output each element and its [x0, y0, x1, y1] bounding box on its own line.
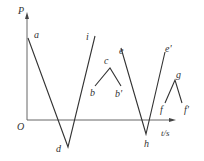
point-label-e: e [119, 46, 123, 56]
point-label-f: f [160, 105, 163, 115]
point-label-h: h [144, 139, 149, 149]
y-axis-arrow-icon [25, 12, 29, 19]
point-label-d: d [56, 144, 61, 154]
x-axis-label: t/s [161, 128, 170, 138]
point-label-b: b [90, 88, 95, 98]
point-label-a: a [34, 30, 39, 40]
point-label-i: i [86, 32, 89, 42]
curve-b-c-b-prime [95, 68, 121, 86]
x-axis-arrow-icon [169, 118, 176, 122]
point-label-f-prime: f' [184, 105, 189, 115]
diagram-canvas [0, 0, 204, 161]
point-label-e-prime: e' [165, 44, 172, 54]
pressure-time-diagram: P O t/s a d i b c b' e h e' f g f' [0, 0, 204, 161]
point-label-b-prime: b' [115, 89, 122, 99]
curve-e-h-e-prime [121, 48, 165, 134]
origin-label: O [17, 122, 24, 132]
curve-f-g-f-prime [165, 80, 182, 103]
point-label-c: c [104, 56, 108, 66]
curve-a-d-i [28, 36, 95, 147]
point-label-g: g [176, 70, 181, 80]
y-axis-label: P [18, 6, 24, 16]
